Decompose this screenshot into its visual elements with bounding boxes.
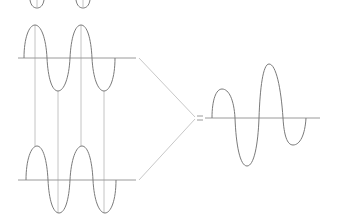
resultant-wave xyxy=(205,64,320,166)
equals-sign xyxy=(197,116,203,120)
resultant-wave-curve xyxy=(212,64,306,166)
converging-connectors xyxy=(139,58,195,180)
superposition-diagram xyxy=(0,0,338,216)
wave-a xyxy=(18,25,136,91)
top-partial-wave xyxy=(30,0,90,8)
wave-b xyxy=(18,146,136,213)
